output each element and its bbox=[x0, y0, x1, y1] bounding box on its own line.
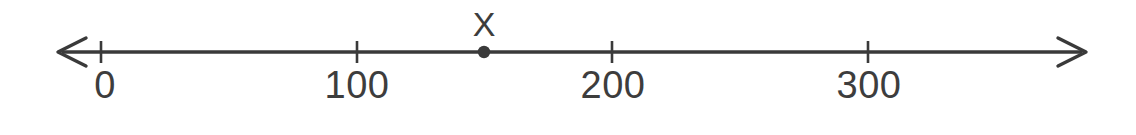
data-point-label-x: X bbox=[473, 7, 496, 41]
number-line-graphic bbox=[0, 0, 1136, 135]
tick-label-0: 0 bbox=[94, 66, 116, 104]
data-point-x-marker bbox=[478, 46, 490, 58]
number-line-figure: 0 100 200 300 X bbox=[0, 0, 1136, 135]
tick-label-200: 200 bbox=[581, 66, 646, 104]
tick-label-300: 300 bbox=[837, 66, 902, 104]
tick-label-100: 100 bbox=[325, 66, 390, 104]
